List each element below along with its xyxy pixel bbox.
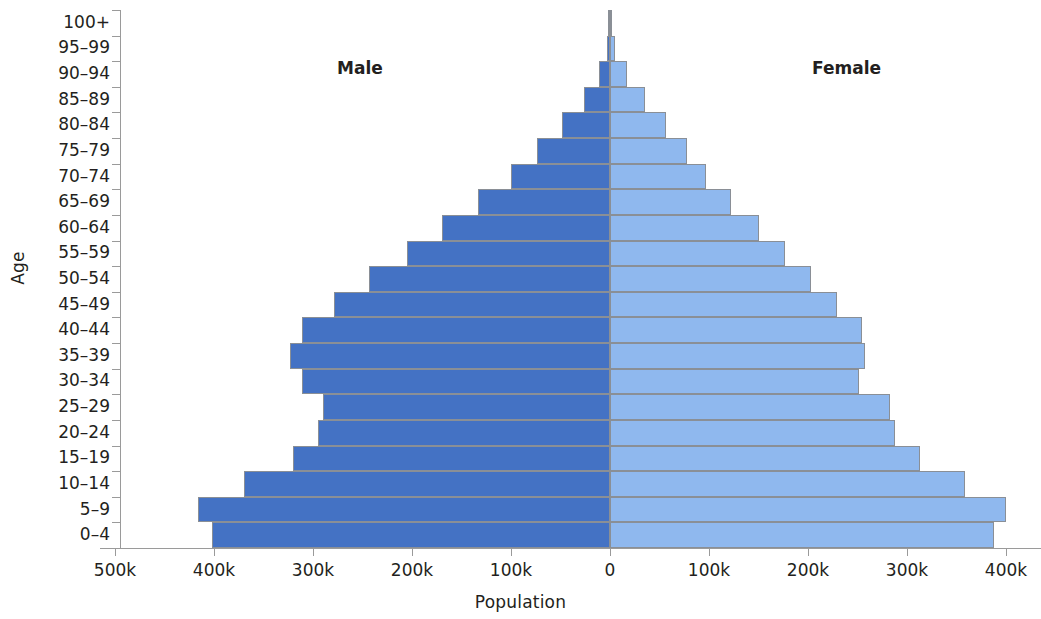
y-tick [112,189,120,190]
x-tick-label: 300k [258,560,368,580]
y-tick-label: 85–89 [0,91,110,108]
bar-female-70-74 [610,164,706,190]
bar-male-0-4 [212,522,610,548]
bar-female-65-69 [610,189,731,215]
y-tick-label: 60–64 [0,219,110,236]
y-tick [112,10,120,11]
y-tick [112,87,120,88]
plot-area [121,10,1041,548]
x-tick-label: 300k [852,560,962,580]
y-tick [112,317,120,318]
bar-male-55-59 [407,241,610,267]
bar-male-60-64 [442,215,610,241]
x-tick-label: 100k [456,560,566,580]
y-tick [112,369,120,370]
bar-female-90-94 [610,61,627,87]
y-tick-label: 80–84 [0,116,110,133]
y-tick-label: 95–99 [0,39,110,56]
bar-male-75-79 [537,138,610,164]
x-tick-label: 500k [60,560,170,580]
bar-female-75-79 [610,138,687,164]
y-tick [112,138,120,139]
y-tick [112,446,120,447]
x-tick-label: 400k [951,560,1041,580]
bar-female-5-9 [610,497,1006,523]
bar-male-30-34 [302,369,610,395]
bar-male-25-29 [323,394,610,420]
y-tick-label: 20–24 [0,424,110,441]
bar-female-25-29 [610,394,890,420]
x-tick [313,548,314,556]
y-tick [112,112,120,113]
y-tick-label: 55–59 [0,244,110,261]
y-tick-label: 30–34 [0,372,110,389]
y-tick-label: 15–19 [0,449,110,466]
x-tick-label: 200k [753,560,863,580]
bar-male-90-94 [599,61,610,87]
bar-male-20-24 [318,420,610,446]
bar-male-70-74 [511,164,610,190]
y-tick [112,343,120,344]
bar-female-20-24 [610,420,895,446]
bar-female-80-84 [610,112,666,138]
x-tick [214,548,215,556]
y-tick [112,292,120,293]
bar-male-80-84 [562,112,610,138]
y-tick-label: 35–39 [0,347,110,364]
bar-female-40-44 [610,317,862,343]
y-tick-label: 25–29 [0,398,110,415]
bar-female-95-99 [610,36,615,62]
y-tick [112,164,120,165]
bar-male-10-14 [244,471,610,497]
y-tick [112,497,120,498]
y-tick-label: 0–4 [0,526,110,543]
bar-female-15-19 [610,446,920,472]
x-tick [115,548,116,556]
y-tick [112,522,120,523]
y-tick-label: 10–14 [0,475,110,492]
x-axis-line [100,548,1041,549]
y-tick-label: 65–69 [0,193,110,210]
x-tick-label: 400k [159,560,269,580]
bar-female-85-89 [610,87,645,113]
y-tick [112,266,120,267]
bar-female-10-14 [610,471,965,497]
bar-female-30-34 [610,369,859,395]
y-tick [112,215,120,216]
bar-female-50-54 [610,266,811,292]
x-tick [907,548,908,556]
y-tick-label: 75–79 [0,142,110,159]
series-label-male: Male [337,58,383,78]
y-tick [112,241,120,242]
bar-male-5-9 [198,497,610,523]
population-pyramid-chart: Age 0–45–910–1415–1920–2425–2930–3435–39… [0,0,1041,619]
bar-male-15-19 [293,446,610,472]
bar-male-85-89 [584,87,610,113]
bar-male-40-44 [302,317,610,343]
y-tick [112,36,120,37]
x-tick-label: 200k [357,560,467,580]
y-tick-label: 40–44 [0,321,110,338]
x-tick [511,548,512,556]
y-tick-label: 90–94 [0,65,110,82]
bar-female-35-39 [610,343,865,369]
y-tick [112,61,120,62]
bar-female-0-4 [610,522,994,548]
bar-female-100+ [610,10,612,36]
x-tick [412,548,413,556]
x-tick-label: 100k [654,560,764,580]
bar-male-35-39 [290,343,610,369]
y-axis-tick-labels: 0–45–910–1415–1920–2425–2930–3435–3940–4… [0,0,110,619]
y-tick-label: 100+ [0,14,110,31]
y-tick-label: 45–49 [0,296,110,313]
bar-male-65-69 [478,189,610,215]
y-tick-label: 5–9 [0,501,110,518]
bar-male-45-49 [334,292,610,318]
x-tick [610,548,611,556]
bar-female-55-59 [610,241,785,267]
y-tick-label: 50–54 [0,270,110,287]
y-tick [112,471,120,472]
x-tick-label: 0 [555,560,665,580]
x-tick [808,548,809,556]
x-axis-title: Population [0,592,1041,612]
